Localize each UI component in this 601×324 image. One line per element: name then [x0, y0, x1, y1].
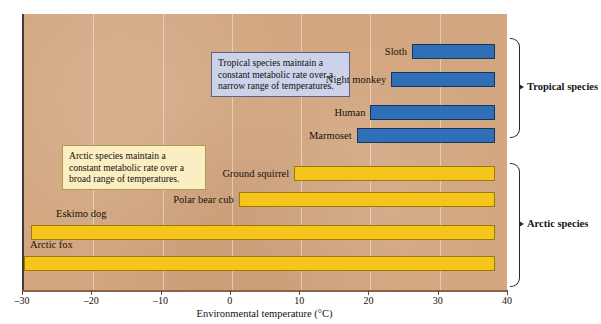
bar-human	[370, 105, 495, 120]
bar-label-human: Human	[0, 105, 365, 120]
x-tick-label: 40	[502, 295, 512, 306]
bar-label-eskimo-dog: Eskimo dog	[56, 206, 106, 221]
bar-label-sloth: Sloth	[0, 44, 407, 59]
x-tick-label: 0	[227, 295, 232, 306]
x-tick-label: 20	[363, 295, 373, 306]
bracket-tropical-arrow	[519, 84, 524, 90]
bar-ground-squirrel	[294, 166, 495, 181]
bar-polar-bear-cub	[239, 192, 495, 207]
x-tick-label: –10	[153, 295, 168, 306]
bar-marmoset	[357, 128, 496, 143]
group-label-arctic: Arctic species	[527, 218, 588, 229]
group-label-tropical: Tropical species	[527, 81, 598, 92]
x-tick-label: 30	[433, 295, 443, 306]
bar-arctic-fox	[24, 256, 495, 271]
x-axis-line	[22, 290, 507, 292]
bar-label-arctic-fox: Arctic fox	[30, 237, 73, 252]
bar-label-polar-bear-cub: Polar bear cub	[0, 192, 234, 207]
x-tick-label: 10	[294, 295, 304, 306]
x-tick-label: –30	[15, 295, 30, 306]
x-tick-label: –20	[84, 295, 99, 306]
bar-night-monkey	[391, 72, 495, 87]
bar-label-night-monkey: Night monkey	[0, 72, 386, 87]
metabolic-rate-chart: Tropical species maintain a constant met…	[0, 0, 601, 324]
bar-label-ground-squirrel: Ground squirrel	[0, 166, 289, 181]
bar-eskimo-dog	[31, 225, 495, 240]
x-axis-title-text: Environmental temperature (°C)	[197, 308, 333, 319]
x-axis-title: Environmental temperature (°C)	[0, 308, 601, 319]
bar-sloth	[412, 44, 495, 59]
bracket-arctic-arrow	[519, 221, 524, 227]
bar-label-marmoset: Marmoset	[0, 128, 352, 143]
